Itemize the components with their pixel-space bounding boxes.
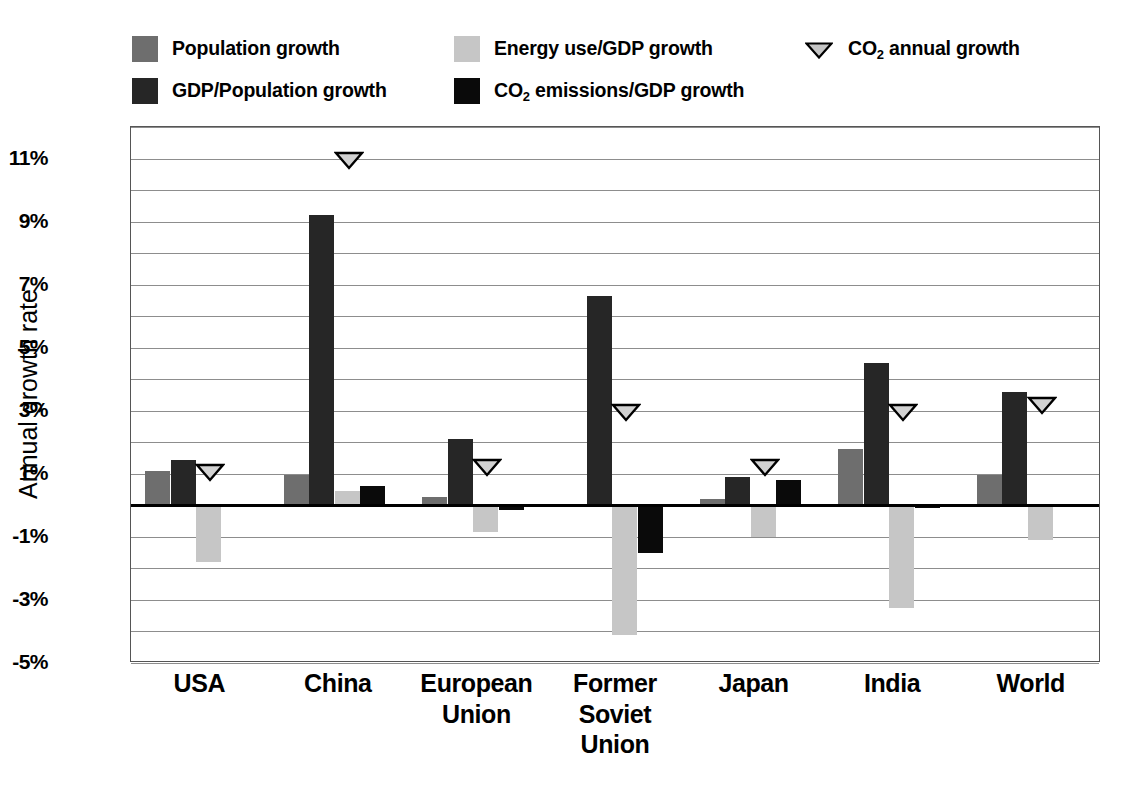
gridline [131,222,1099,223]
legend-label-co2-emissions-gdp-growth-subscript: 2 [523,89,530,104]
triangle-down-icon [472,458,502,477]
y-axis-tick-label: -5% [0,650,48,674]
y-axis-tick-label: -3% [0,587,48,611]
x-axis-category-label: India [823,668,962,699]
co2-annual-growth-marker [1027,396,1057,419]
triangle-down-icon [611,403,641,422]
legend-item-co2-annual-growth: CO2 annual growth [804,36,1020,62]
y-axis-tick-label: -1% [0,524,48,548]
x-axis-category-label: USA [130,668,269,699]
bar [977,475,1002,505]
legend-marker-co2-annual-growth [804,36,834,62]
chart-legend: Population growth GDP/Population growth … [132,34,1112,112]
legend-item-population-growth: Population growth [132,36,340,62]
bar [751,505,776,537]
legend-label-energy-use-gdp-growth: Energy use/GDP growth [494,39,713,59]
legend-label-co2-emissions-gdp-growth-main: CO [494,79,523,101]
bar [638,505,663,552]
x-axis-category-label: Japan [684,668,823,699]
bar [1028,505,1053,540]
y-axis-tick-label: 9% [0,209,48,233]
gridline [131,190,1099,191]
triangle-down-icon [1027,396,1057,415]
bar [1002,392,1027,506]
legend-swatch-co2-emissions-gdp-growth [454,78,480,104]
triangle-down-icon [750,458,780,477]
legend-item-gdp-population-growth: GDP/Population growth [132,78,387,104]
triangle-down-icon [195,463,225,482]
bar [473,505,498,532]
y-axis-title-container: Annual growth rate [0,126,56,662]
bar [838,449,863,506]
x-axis-category-label: European Union [407,668,546,729]
gridline [131,127,1099,128]
zero-axis-line [131,504,1099,507]
y-axis-tick-label: 11% [0,146,48,170]
bar [196,505,221,562]
legend-item-co2-emissions-gdp-growth: CO2 emissions/GDP growth [454,78,744,104]
x-axis-category-labels: USAChinaEuropean UnionFormer Soviet Unio… [130,668,1100,798]
legend-label-co2-emissions-gdp-growth: CO2 emissions/GDP growth [494,81,744,101]
gridline [131,348,1099,349]
bar [612,505,637,634]
y-axis-tick-label: 3% [0,398,48,422]
bar [587,296,612,506]
gridline [131,379,1099,380]
x-axis-category-label: World [961,668,1100,699]
gridline [131,316,1099,317]
gridline [131,442,1099,443]
legend-label-co2-emissions-gdp-growth-tail: emissions/GDP growth [530,79,744,101]
legend-label-co2-annual-growth-main: CO [848,37,877,59]
legend-swatch-energy-use-gdp-growth [454,36,480,62]
bar [448,439,473,505]
gridline [131,285,1099,286]
x-axis-category-label: China [269,668,408,699]
bar [889,505,914,607]
y-axis-tick-label: 1% [0,461,48,485]
x-axis-category-label: Former Soviet Union [546,668,685,760]
legend-label-gdp-population-growth: GDP/Population growth [172,81,387,101]
co2-annual-growth-marker [472,458,502,481]
legend-item-energy-use-gdp-growth: Energy use/GDP growth [454,36,713,62]
gridline [131,474,1099,475]
y-axis-tick-label: 7% [0,272,48,296]
legend-label-co2-annual-growth: CO2 annual growth [848,39,1020,59]
co2-annual-growth-marker [334,151,364,174]
legend-label-co2-annual-growth-subscript: 2 [877,47,884,62]
co2-annual-growth-marker [888,403,918,426]
bar [145,471,170,506]
triangle-down-icon [334,151,364,170]
y-axis-tick-label: 5% [0,335,48,359]
gridline [131,159,1099,160]
bar [171,460,196,506]
chart-plot-area [130,126,1100,662]
legend-swatch-gdp-population-growth [132,78,158,104]
triangle-down-icon [805,42,833,59]
co2-annual-growth-marker [195,463,225,486]
bar [864,363,889,505]
legend-label-co2-annual-growth-tail: annual growth [884,37,1020,59]
legend-label-population-growth: Population growth [172,39,340,59]
co2-annual-growth-marker [750,458,780,481]
gridline [131,253,1099,254]
bar [284,475,309,505]
bar [776,480,801,505]
co2-annual-growth-marker [611,403,641,426]
legend-swatch-population-growth [132,36,158,62]
bar [309,215,334,505]
gridline [131,663,1099,664]
bar [725,477,750,505]
triangle-down-icon [888,403,918,422]
bar [360,486,385,505]
